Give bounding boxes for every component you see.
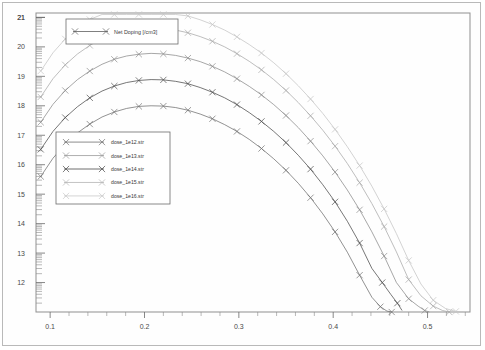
x-tick-label: 0.2	[140, 323, 150, 330]
y-tick-label: 14	[17, 220, 25, 227]
y-tick-label: 15	[17, 191, 25, 198]
legend-net-doping[interactable]: Net Doping [/cm3]	[66, 19, 178, 44]
y-tick-label: 16	[17, 161, 25, 168]
x-axis: 0.10.20.30.40.5	[45, 312, 465, 330]
y-tick-label: 17	[17, 132, 25, 139]
legend-series[interactable]: dose_1e12.strdose_1e13.strdose_1e14.strd…	[56, 132, 170, 204]
x-tick-label: 0.5	[423, 323, 433, 330]
chart-window: 12131415161718192021210.10.20.30.40.5Net…	[0, 0, 485, 350]
y-tick-label: 12	[17, 279, 25, 286]
x-tick-label: 0.4	[328, 323, 338, 330]
legend-series-label: dose_1e12.str	[111, 139, 144, 145]
y-tick-label: 21	[17, 14, 25, 21]
y-tick-label: 20	[17, 43, 25, 50]
legend-net-doping-label: Net Doping [/cm3]	[114, 29, 158, 35]
legend-series-label: dose_1e13.str	[111, 153, 144, 159]
y-tick-label: 18	[17, 102, 25, 109]
plot-canvas: 12131415161718192021210.10.20.30.40.5Net…	[0, 0, 485, 350]
x-tick-label: 0.1	[45, 323, 55, 330]
y-axis: 1213141516171819202121	[17, 14, 45, 303]
legend-series-label: dose_1e16.str	[111, 193, 144, 199]
x-tick-label: 0.3	[234, 323, 244, 330]
legend-series-label: dose_1e15.str	[111, 179, 144, 185]
y-tick-label: 13	[17, 250, 25, 257]
legend-series-label: dose_1e14.str	[111, 166, 144, 172]
y-tick-label: 19	[17, 73, 25, 80]
